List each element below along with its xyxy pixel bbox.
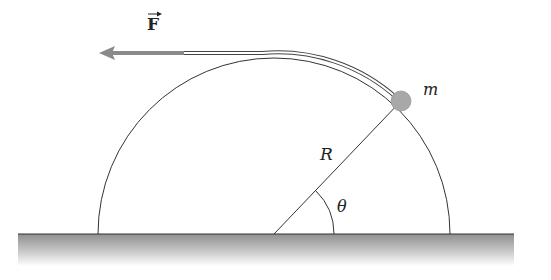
- physics-diagram: [0, 0, 551, 280]
- angle-arc: [316, 191, 334, 234]
- mass-ball: [391, 91, 411, 111]
- hemisphere: [98, 58, 450, 234]
- ground: [18, 234, 514, 266]
- radius-label: R: [320, 144, 333, 164]
- angle-label: θ: [337, 197, 347, 216]
- force-arrow: [99, 46, 184, 60]
- mass-label: m: [423, 80, 438, 99]
- force-label: F: [147, 14, 159, 34]
